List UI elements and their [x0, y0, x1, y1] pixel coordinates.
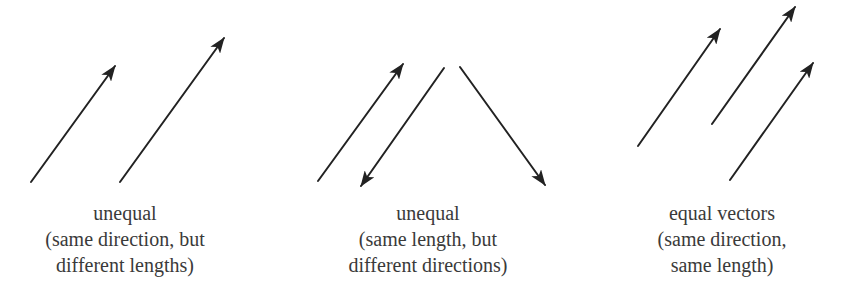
caption-detail-2: same length): [658, 252, 787, 278]
vector-arrow: [460, 67, 545, 185]
vector-arrow: [638, 29, 720, 146]
caption-title: unequal: [45, 200, 204, 226]
vectors-layer: [31, 7, 813, 186]
vector-arrow: [318, 64, 403, 181]
vector-arrow: [31, 66, 115, 182]
vector-group-unequal-directions: [318, 64, 545, 186]
vector-arrow: [120, 38, 224, 182]
caption-detail-2: different directions): [348, 252, 507, 278]
caption-title: equal vectors: [658, 200, 787, 226]
caption-title: unequal: [348, 200, 507, 226]
caption-unequal-directions: unequal (same length, but different dire…: [348, 200, 507, 278]
caption-detail-1: (same length, but: [348, 226, 507, 252]
caption-unequal-lengths: unequal (same direction, but different l…: [45, 200, 204, 278]
vector-arrow: [361, 68, 444, 186]
caption-equal-vectors: equal vectors (same direction, same leng…: [658, 200, 787, 278]
vector-group-unequal-lengths: [31, 38, 224, 182]
caption-detail-1: (same direction,: [658, 226, 787, 252]
caption-detail-1: (same direction, but: [45, 226, 204, 252]
caption-detail-2: different lengths): [45, 252, 204, 278]
vector-group-equal-vectors: [638, 7, 813, 180]
